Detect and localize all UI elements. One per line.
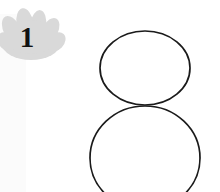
head-circle xyxy=(100,31,190,105)
sketch-canvas: 1 xyxy=(0,0,220,192)
badge-number-label: 1 xyxy=(14,20,40,54)
